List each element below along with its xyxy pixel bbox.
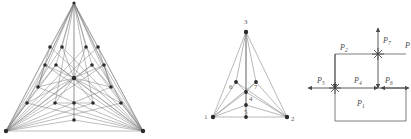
label-p2: P2 [339,43,348,53]
mid-graph-labels: 3 6 7 4 5 1 2 [204,18,295,123]
mid-graph-svg: 3 6 7 4 5 1 2 [150,0,310,139]
node-label-1: 1 [204,113,208,121]
label-p7: P7 [382,36,391,46]
figure-page: 3 6 7 4 5 1 2 [0,0,411,139]
left-graph-edges [6,3,143,131]
node-label-2: 2 [291,115,295,123]
node-label-4: 4 [249,95,253,103]
node-label-7: 7 [254,83,258,91]
right-diagram-labels: P1 P2 P4 P5 P6 P7 P [316,36,410,109]
node-label-6: 6 [229,83,233,91]
right-diagram-svg: P1 P2 P4 P5 P6 P7 P [305,0,411,139]
mid-graph-edges [213,32,287,117]
node-star-upper [372,48,384,60]
node-star-lower-left [329,82,341,94]
label-p5: P5 [316,76,325,86]
label-p6: P6 [384,76,393,86]
node-label-3: 3 [244,18,248,26]
figure-force-vector-diagram: P1 P2 P4 P5 P6 P7 P [305,0,411,139]
left-graph-svg [0,0,150,139]
figure-dense-triangular-graph [0,0,150,139]
label-p1: P1 [356,99,365,109]
figure-labeled-triangular-graph: 3 6 7 4 5 1 2 [150,0,310,139]
right-diagram-rects [335,54,406,121]
right-diagram-nodes [329,48,384,94]
node-label-5: 5 [244,108,248,116]
label-p4: P4 [353,76,362,86]
label-p3: P [404,41,410,50]
mid-graph-nodes [211,30,289,119]
